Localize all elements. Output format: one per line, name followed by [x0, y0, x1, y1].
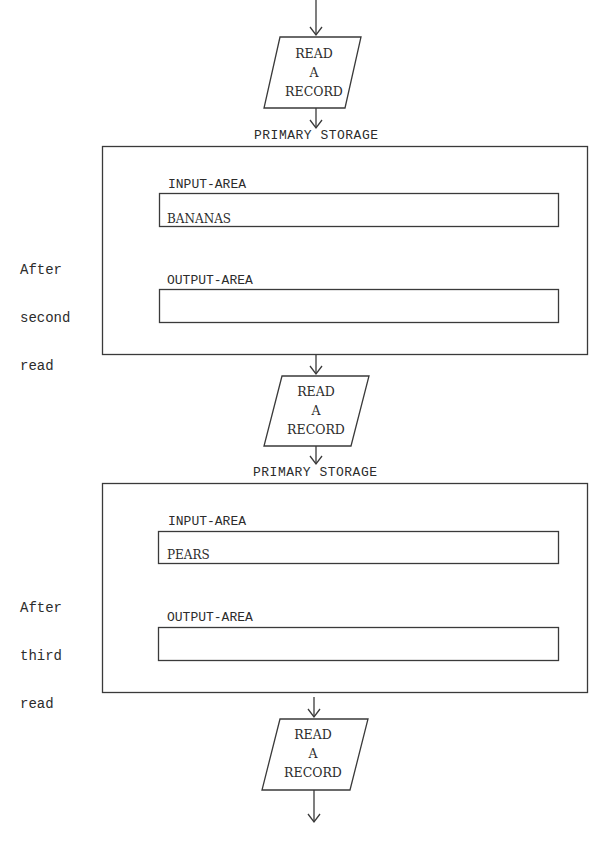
side-note-2: After third read	[20, 568, 62, 728]
output-area-box-2	[159, 628, 559, 661]
step-line: A	[276, 401, 356, 420]
note-line: third	[20, 648, 62, 664]
step-line: READ	[274, 44, 354, 63]
note-line: read	[20, 696, 62, 712]
step-line: RECORD	[276, 420, 356, 439]
storage-title-1: PRIMARY STORAGE	[254, 128, 379, 143]
step-line: RECORD	[273, 763, 353, 782]
input-area-box-2	[159, 532, 559, 564]
note-line: read	[20, 358, 70, 374]
step-line: A	[274, 63, 354, 82]
step-line: READ	[273, 725, 353, 744]
output-area-label-1: OUTPUT-AREA	[167, 273, 253, 288]
side-note-1: After second read	[20, 230, 70, 390]
input-area-value-2: PEARS	[167, 548, 210, 562]
note-line: second	[20, 310, 70, 326]
input-area-label-2: INPUT-AREA	[168, 514, 246, 529]
read-record-step-1: READ A RECORD	[274, 44, 354, 101]
read-record-step-3: READ A RECORD	[273, 725, 353, 782]
output-area-box-1	[160, 290, 559, 323]
step-line: RECORD	[274, 82, 354, 101]
input-area-label-1: INPUT-AREA	[168, 177, 246, 192]
step-line: A	[273, 744, 353, 763]
input-area-value-1: BANANAS	[167, 212, 231, 226]
note-line: After	[20, 600, 62, 616]
output-area-label-2: OUTPUT-AREA	[167, 610, 253, 625]
storage-title-2: PRIMARY STORAGE	[253, 465, 378, 480]
read-record-step-2: READ A RECORD	[276, 382, 356, 439]
note-line: After	[20, 262, 70, 278]
step-line: READ	[276, 382, 356, 401]
